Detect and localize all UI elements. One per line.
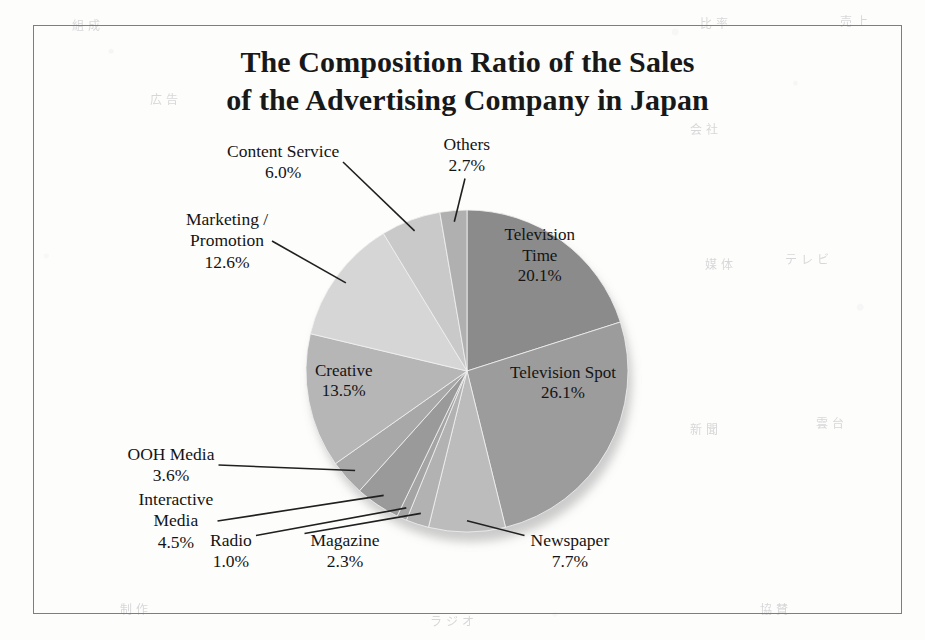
slice-label-value: 2.3% xyxy=(311,551,380,572)
slice-label: OOH Media3.6% xyxy=(128,444,215,487)
slice-label: TelevisionTime20.1% xyxy=(505,225,576,287)
slice-label-value: 3.6% xyxy=(128,465,215,486)
slice-label-value: 2.7% xyxy=(444,155,491,176)
slice-label-name-2: Time xyxy=(505,246,576,267)
slice-label-name: Newspaper xyxy=(531,530,610,551)
leader-line xyxy=(272,241,346,283)
slice-label-value: 26.1% xyxy=(510,383,616,404)
slice-label-name: Marketing / xyxy=(186,209,268,230)
slice-label-name: Interactive xyxy=(139,489,214,510)
pie-chart-area: TelevisionTime20.1%Television Spot26.1%N… xyxy=(0,0,925,640)
slice-label: Newspaper7.7% xyxy=(531,530,610,573)
slice-label-value: 20.1% xyxy=(505,266,576,287)
slice-label: Television Spot26.1% xyxy=(510,363,616,404)
slice-label-name: Creative xyxy=(315,361,373,382)
slice-label-name: Others xyxy=(444,134,491,155)
slice-label-name: Television xyxy=(505,225,576,246)
slice-label-name-2: Promotion xyxy=(186,230,268,251)
slice-label-value: 7.7% xyxy=(531,551,610,572)
slice-label-name: Television Spot xyxy=(510,363,616,384)
slice-label: Creative13.5% xyxy=(315,361,373,402)
slice-label: Radio1.0% xyxy=(210,530,252,573)
slice-label: Marketing /Promotion12.6% xyxy=(186,209,268,273)
leader-line xyxy=(343,162,415,231)
slice-label: Magazine2.3% xyxy=(311,530,380,573)
slice-label-name: Radio xyxy=(210,530,252,551)
slice-label: Content Service6.0% xyxy=(227,141,339,184)
slice-label-value: 12.6% xyxy=(186,252,268,273)
slice-label-name: Content Service xyxy=(227,141,339,162)
slice-label-name: OOH Media xyxy=(128,444,215,465)
slice-label-name: Magazine xyxy=(311,530,380,551)
slice-label-value: 6.0% xyxy=(227,162,339,183)
leader-line xyxy=(219,465,356,471)
chart-page: 組 成比 率売 上広 告会 社媒 体テ レ ビ新 聞雲 台制 作ラ ジ オ協 賛… xyxy=(0,0,925,640)
slice-label: InteractiveMedia4.5% xyxy=(139,489,214,553)
slice-label-value: 13.5% xyxy=(315,381,373,402)
slice-label: Others2.7% xyxy=(444,134,491,177)
slice-label-name-2: Media xyxy=(139,510,214,531)
slice-label-value: 4.5% xyxy=(139,532,214,553)
slice-label-value: 1.0% xyxy=(210,551,252,572)
